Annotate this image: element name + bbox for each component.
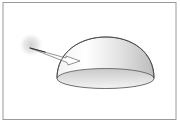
light-source-glow bbox=[18, 32, 44, 58]
dome-base-ellipse bbox=[57, 69, 154, 89]
diagram-frame bbox=[0, 0, 180, 123]
dome-diagram bbox=[0, 0, 180, 123]
